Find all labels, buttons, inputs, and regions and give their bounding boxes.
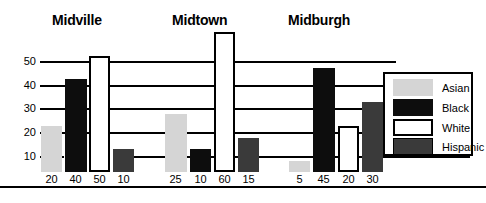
legend-swatch-white-icon (393, 119, 433, 136)
y-tick-label-20: 20 (10, 127, 36, 138)
value-label-midburgh-hispanic: 30 (360, 174, 385, 185)
bar-midville-black (65, 79, 87, 172)
bar-midtown-black (190, 149, 211, 172)
bar-midburgh-white (338, 126, 359, 172)
legend-label-white: White (442, 122, 470, 134)
legend-swatch-hispanic-icon (393, 138, 433, 155)
bar-midburgh-black (313, 68, 335, 172)
bar-midville-asian (41, 126, 62, 172)
value-label-midtown-black: 10 (188, 174, 213, 185)
value-label-midburgh-black: 45 (311, 174, 336, 185)
y-tick-label-10: 10 (10, 151, 36, 162)
grouped-bar-chart: Midville Midtown Midburgh 50 40 30 20 10… (0, 0, 486, 203)
value-label-midville-black: 40 (63, 174, 88, 185)
bar-midtown-white (214, 32, 235, 172)
value-label-midville-white: 50 (87, 174, 112, 185)
chart-baseline (0, 186, 486, 188)
bar-midtown-asian (165, 114, 187, 172)
legend-label-black: Black (442, 102, 469, 114)
bar-midburgh-asian (289, 161, 310, 172)
group-title-midburgh: Midburgh (288, 12, 350, 28)
chart-legend: Asian Black White Hispanic (383, 72, 473, 156)
legend-label-hispanic: Hispanic (442, 141, 484, 153)
value-label-midtown-white: 60 (212, 174, 237, 185)
legend-entry-white: White (393, 119, 470, 136)
value-label-midville-hispanic: 10 (111, 174, 136, 185)
legend-entry-hispanic: Hispanic (393, 138, 484, 155)
legend-entry-asian: Asian (393, 79, 470, 96)
legend-swatch-black-icon (393, 99, 433, 116)
value-label-midburgh-white: 20 (336, 174, 361, 185)
y-tick-label-50: 50 (10, 56, 36, 67)
value-label-midburgh-asian: 5 (287, 174, 312, 185)
group-title-midville: Midville (52, 12, 102, 28)
value-label-midtown-asian: 25 (163, 174, 188, 185)
value-label-midtown-hispanic: 15 (236, 174, 261, 185)
bar-midtown-hispanic (238, 138, 259, 172)
legend-label-asian: Asian (442, 82, 470, 94)
bar-midburgh-hispanic (362, 102, 383, 172)
y-tick-label-30: 30 (10, 103, 36, 114)
bar-midville-white (89, 56, 110, 172)
legend-swatch-asian-icon (393, 79, 433, 96)
legend-entry-black: Black (393, 99, 469, 116)
y-tick-label-40: 40 (10, 80, 36, 91)
value-label-midville-asian: 20 (39, 174, 64, 185)
bar-midville-hispanic (113, 149, 134, 172)
group-title-midtown: Midtown (172, 12, 227, 28)
